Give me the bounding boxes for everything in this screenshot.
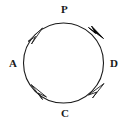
label-p: P [61,4,68,15]
arrow-filled-top-right [89,26,104,39]
label-d: D [110,58,118,69]
label-a: A [9,58,17,69]
diagram-canvas: P A D C [0,0,129,124]
arrow-hollow-bottom-left [31,85,47,100]
label-c: C [61,108,69,119]
